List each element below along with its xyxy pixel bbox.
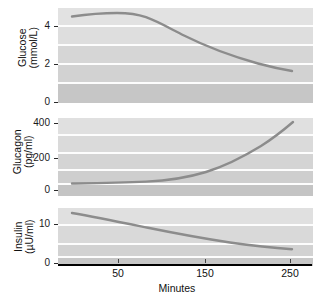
ytick-mark <box>54 224 58 225</box>
ylabel-glucose-line2: (mmol/L) <box>28 3 40 93</box>
ytick-label-glucose-0: 0 <box>20 97 50 107</box>
panel-glucose: 4 2 0 Glucose (mmol/L) <box>0 0 324 108</box>
ytick-mark <box>54 102 58 103</box>
ytick-mark <box>54 190 58 191</box>
plot-area-insulin <box>58 208 313 266</box>
x-axis-line <box>58 264 312 266</box>
x-axis-title: Minutes <box>0 282 324 294</box>
plot-area-glucose <box>58 8 313 103</box>
xtick-mark <box>205 259 206 263</box>
xtick-label-50: 50 <box>101 267 135 279</box>
figure-root: 4 2 0 Glucose (mmol/L) 400 200 0 Glucago <box>0 0 324 301</box>
ytick-mark <box>54 64 58 65</box>
curve-glucagon <box>58 118 313 196</box>
xtick-label-150: 150 <box>188 267 222 279</box>
ytick-mark <box>54 26 58 27</box>
ytick-mark <box>54 123 58 124</box>
xtick-mark <box>118 259 119 263</box>
ytick-mark <box>54 158 58 159</box>
ylabel-glucagon-line2: (pg/ml) <box>23 107 35 197</box>
ylabel-insulin-line2: (µU/ml) <box>24 192 36 282</box>
plot-area-glucagon <box>58 118 313 196</box>
xtick-mark <box>290 259 291 263</box>
curve-glucose <box>58 8 313 103</box>
xtick-label-250: 250 <box>273 267 307 279</box>
curve-insulin <box>58 208 313 266</box>
panel-glucagon: 400 200 0 Glucagon (pg/ml) <box>0 110 324 195</box>
